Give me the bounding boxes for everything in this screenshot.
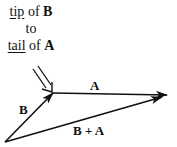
label-vector-b: B (19, 103, 28, 116)
label-vector-a: A (90, 79, 99, 92)
vector-a-arrow (53, 93, 167, 95)
pointer-double-arrow-icon (33, 66, 52, 92)
label-vector-b-plus-a: B + A (73, 124, 104, 137)
